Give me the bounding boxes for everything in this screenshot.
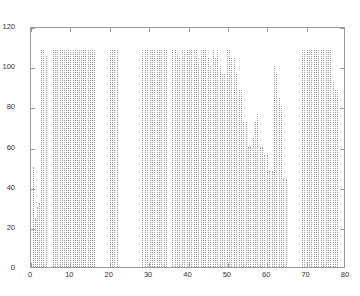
stem-line <box>253 138 254 267</box>
stem-line <box>77 50 78 267</box>
stem-line <box>33 167 34 267</box>
x-tick-mark <box>307 263 308 267</box>
stem-line <box>215 58 216 267</box>
stem-line <box>217 50 218 267</box>
stem-line <box>335 90 336 267</box>
stem-line <box>164 50 165 267</box>
stem-line <box>154 50 155 267</box>
stem-line <box>196 50 197 267</box>
stem-line <box>210 66 211 267</box>
x-tick-label: 20 <box>96 271 122 279</box>
x-tick-mark <box>70 263 71 267</box>
x-tick-mark-top <box>31 28 32 32</box>
x-tick-label: 0 <box>17 271 43 279</box>
stem-line <box>142 50 143 267</box>
x-tick-mark <box>31 263 32 267</box>
x-tick-mark <box>228 263 229 267</box>
stem-line <box>281 106 282 267</box>
stem-line <box>302 50 303 267</box>
stem-line <box>222 74 223 267</box>
stem-line <box>172 50 173 267</box>
stem-line <box>64 50 65 267</box>
y-tick-mark-right <box>340 68 344 69</box>
stem-line <box>75 50 76 267</box>
stem-line <box>175 50 176 267</box>
stem-line <box>203 50 204 267</box>
stem-line <box>239 90 240 267</box>
stem-line <box>112 50 113 267</box>
stem-line <box>191 50 192 267</box>
x-tick-label: 30 <box>135 271 161 279</box>
stem-line <box>267 155 268 267</box>
x-tick-label: 80 <box>332 271 358 279</box>
stem-line <box>272 171 273 267</box>
stem-line <box>246 122 247 267</box>
plot-area <box>30 27 345 268</box>
y-tick-mark-right <box>340 149 344 150</box>
stem-line <box>150 50 151 267</box>
stem-line <box>248 147 249 268</box>
stem-line <box>260 147 261 268</box>
stem-line <box>262 147 263 268</box>
x-tick-mark-top <box>267 28 268 32</box>
stem-line <box>68 50 69 267</box>
x-tick-label: 70 <box>293 271 319 279</box>
y-tick-mark-right <box>340 189 344 190</box>
x-tick-mark <box>267 263 268 267</box>
x-tick-mark <box>110 263 111 267</box>
stem-line <box>229 50 230 267</box>
stem-line <box>117 50 118 267</box>
y-tick-mark <box>31 108 35 109</box>
y-tick-mark <box>31 189 35 190</box>
y-tick-mark <box>31 149 35 150</box>
x-tick-label: 40 <box>175 271 201 279</box>
stem-line <box>166 50 167 267</box>
stem-line <box>179 58 180 267</box>
stem-line <box>241 90 242 267</box>
x-tick-mark <box>149 263 150 267</box>
stem-line <box>55 50 56 267</box>
stem-line <box>286 179 287 267</box>
stem-line <box>92 50 93 267</box>
stem-line <box>231 58 232 267</box>
stem-line <box>182 50 183 267</box>
stem-line <box>304 50 305 267</box>
stem-line <box>85 50 86 267</box>
stem-line <box>234 58 235 267</box>
x-tick-mark-top <box>307 28 308 32</box>
stem-line <box>161 50 162 267</box>
x-tick-mark-top <box>110 28 111 32</box>
y-tick-label: 80 <box>0 103 15 111</box>
stem-line <box>152 50 153 267</box>
stem-line <box>110 50 111 267</box>
y-tick-label: 100 <box>0 63 15 71</box>
stem-line <box>311 50 312 267</box>
stem-line <box>90 50 91 267</box>
stem-line <box>333 82 334 267</box>
stem-line <box>250 147 251 268</box>
stem-line <box>147 50 148 267</box>
stem-line <box>37 207 38 267</box>
stem-line <box>328 50 329 267</box>
stem-line <box>255 122 256 267</box>
stem-line <box>201 50 202 267</box>
x-tick-mark <box>189 263 190 267</box>
stem-line <box>224 74 225 267</box>
x-tick-mark-top <box>189 28 190 32</box>
x-tick-label: 60 <box>253 271 279 279</box>
stem-line <box>318 50 319 267</box>
stem-line <box>236 74 237 267</box>
stem-line <box>189 50 190 267</box>
stem-line <box>57 50 58 267</box>
y-tick-label: 40 <box>0 184 15 192</box>
stem-line <box>187 50 188 267</box>
y-tick-mark-right <box>340 28 344 29</box>
stem-line <box>66 50 67 267</box>
stem-line <box>276 74 277 267</box>
y-tick-mark <box>31 229 35 230</box>
stem-line <box>83 50 84 267</box>
stem-line <box>70 50 71 267</box>
stem-line <box>43 50 44 267</box>
y-tick-label: 120 <box>0 23 15 31</box>
stem-line <box>198 58 199 267</box>
